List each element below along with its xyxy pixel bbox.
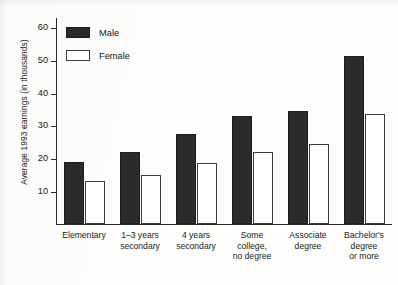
bar-male-0 — [64, 162, 84, 224]
bar-male-5 — [344, 56, 364, 224]
legend-item-male: Male — [66, 27, 130, 38]
tick-label: 50 — [38, 56, 48, 65]
tick-label: 20 — [38, 155, 48, 164]
bar-male-2 — [176, 134, 196, 224]
tick-label: 30 — [38, 122, 48, 131]
tick-mark — [51, 61, 57, 62]
legend-item-female: Female — [66, 50, 130, 61]
tick-mark — [51, 28, 57, 29]
bar-male-3 — [232, 116, 252, 224]
legend-label-female: Female — [99, 51, 130, 61]
legend-label-male: Male — [99, 28, 119, 38]
bar-female-0 — [85, 181, 105, 224]
legend-swatch-male — [66, 27, 90, 38]
tick-label: 10 — [38, 188, 48, 197]
category-label-5: Bachelor's degree or more — [329, 230, 398, 262]
bar-female-3 — [253, 152, 273, 224]
tick-mark — [51, 94, 57, 95]
bar-female-1 — [141, 175, 161, 224]
bar-male-1 — [120, 152, 140, 224]
y-axis-line — [56, 18, 57, 225]
y-axis-title: Average 1993 earnings (in thousands) — [19, 14, 29, 210]
tick-label: 40 — [38, 89, 48, 98]
tick-mark — [51, 126, 57, 127]
bar-female-4 — [309, 144, 329, 225]
tick-label: 60 — [38, 23, 48, 32]
x-axis-line — [56, 224, 392, 225]
bar-female-5 — [365, 114, 385, 224]
bar-female-2 — [197, 163, 217, 224]
chart-legend: MaleFemale — [66, 27, 130, 73]
tick-mark — [51, 192, 57, 193]
bar-male-4 — [288, 111, 308, 224]
earnings-by-education-bar-chart: Average 1993 earnings (in thousands) 102… — [0, 0, 398, 285]
legend-swatch-female — [66, 50, 90, 61]
tick-mark — [51, 159, 57, 160]
